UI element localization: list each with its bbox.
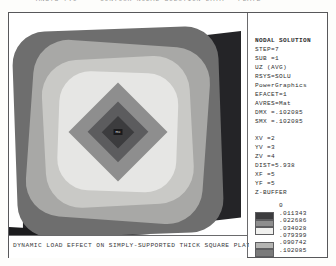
max-location-marker: MX (114, 129, 123, 135)
ansys-plot-window: MX DYNAMIC LOAD EFFECT ON SIMPLY-SUPPORT… (8, 12, 328, 258)
legend-line-zbuffer: Z-BUFFER (255, 189, 287, 196)
legend-line-step: STEP=7 (255, 46, 279, 53)
legend-line-yf: YF =5 (255, 180, 275, 187)
legend-divider (247, 13, 248, 257)
scale-value-5: .090742 (279, 239, 307, 246)
contour-plot-face: MX (15, 29, 221, 235)
caption-strip: DYNAMIC LOAD EFFECT ON SIMPLY-SUPPORTED … (9, 235, 247, 258)
scale-value-4: .079399 (279, 232, 307, 239)
scale-swatch-6 (255, 249, 274, 256)
printed-page-header: ANSYS 7.0 CONTOUR NODAL SOLUTION DATA - … (0, 0, 336, 9)
legend-line-powergraphics: PowerGraphics (255, 82, 307, 89)
legend-column: NODAL SOLUTION STEP=7 SUB =1 UZ (AVG) RS… (249, 13, 327, 257)
legend-line-dist: DIST=5.938 (255, 162, 295, 169)
legend-line-sub: SUB =1 (255, 55, 279, 62)
scale-value-3: .034028 (279, 225, 307, 232)
page-header-right-text: CONTOUR NODAL SOLUTION DATA - PLATE (100, 0, 261, 3)
legend-line-avres: AVRES=Mat (255, 100, 291, 107)
scale-value-1: .011343 (279, 210, 307, 217)
legend-line-smx: SMX =.102085 (255, 118, 303, 125)
scale-value-6: .102085 (279, 247, 307, 254)
scale-value-2: .022686 (279, 217, 307, 224)
scale-swatch-2 (255, 220, 274, 227)
scale-value-0: 0 (279, 202, 283, 209)
scale-row-6: .102085 (255, 249, 327, 256)
page-header-left-text: ANSYS 7.0 (36, 0, 77, 3)
scale-swatch-1 (255, 212, 274, 219)
graphics-area[interactable]: MX (9, 13, 247, 257)
contour-color-scale: 0 .011343 .022686 .034028 .079399 .09074… (255, 205, 327, 257)
legend-line-quantity: UZ (AVG) (255, 64, 287, 71)
legend-line-xf: XF =5 (255, 171, 275, 178)
legend-line-xv: XV =2 (255, 135, 275, 142)
scale-swatch-3 (255, 227, 274, 234)
legend-line-efacet: EFACET=1 (255, 91, 287, 98)
legend-line-yv: YV =3 (255, 144, 275, 151)
legend-line-rsys: RSYS=SOLU (255, 73, 291, 80)
legend-line-zv: ZV =4 (255, 153, 275, 160)
scale-swatch-5 (255, 242, 274, 249)
legend-line-dmx: DMX =.102085 (255, 109, 303, 116)
plot-caption: DYNAMIC LOAD EFFECT ON SIMPLY-SUPPORTED … (13, 242, 254, 249)
legend-title: NODAL SOLUTION (255, 37, 311, 44)
